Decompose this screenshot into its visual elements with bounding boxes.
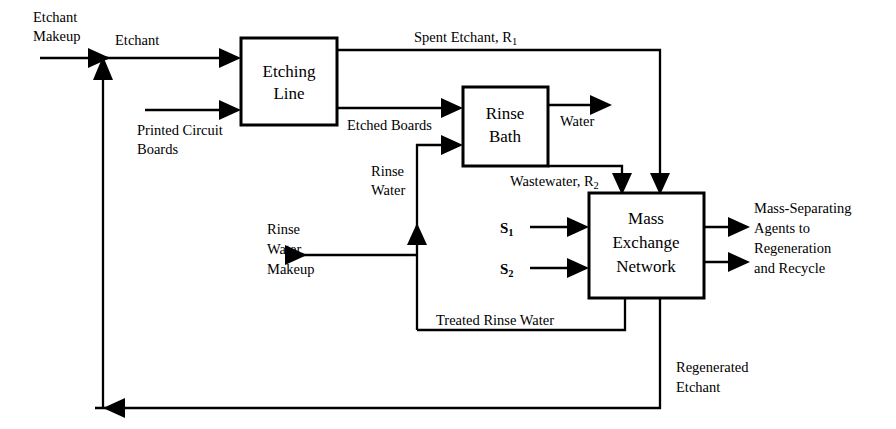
label-etchant-makeup-line1: Etchant bbox=[33, 9, 77, 25]
unit-etching-line[interactable] bbox=[241, 38, 337, 125]
label-rinse-water-makeup-line1: Rinse bbox=[267, 221, 300, 237]
label-spent-etchant: Spent Etchant, R1 bbox=[414, 29, 517, 47]
label-printed-circuit-boards-line1: Printed Circuit bbox=[137, 122, 223, 138]
arrowhead-printed-circuit-boards bbox=[219, 100, 241, 120]
line-regenerated-etchant bbox=[95, 298, 660, 408]
arrowhead-regenerated-etchant bbox=[103, 398, 125, 418]
arrowhead-msa-out-1 bbox=[728, 217, 750, 237]
label-msa-out-line2: Agents to bbox=[754, 220, 810, 236]
unit-mass-exchange-label-line1: Mass bbox=[628, 209, 664, 228]
label-rinse-water-line2: Water bbox=[371, 182, 405, 198]
label-etched-boards: Etched Boards bbox=[347, 117, 432, 133]
process-flow-diagram: Etching Line Rinse Bath Mass Exchange Ne… bbox=[0, 0, 896, 429]
label-wastewater: Wastewater, R2 bbox=[510, 173, 599, 191]
unit-rinse-bath-label-line2: Bath bbox=[489, 127, 522, 146]
label-msa-out-line3: Regeneration bbox=[754, 240, 832, 256]
label-treated-rinse-water: Treated Rinse Water bbox=[436, 312, 554, 328]
label-rinse-water-makeup-line3: Makeup bbox=[267, 261, 315, 277]
label-printed-circuit-boards-line2: Boards bbox=[137, 141, 178, 157]
arrowhead-etched-boards bbox=[441, 98, 463, 118]
arrowhead-water-out bbox=[590, 95, 612, 115]
unit-mass-exchange-label-line2: Exchange bbox=[612, 233, 679, 252]
arrowhead-rinse-water bbox=[441, 135, 463, 155]
label-msa-s2: S2 bbox=[500, 261, 514, 279]
flowsheet-canvas: Etching Line Rinse Bath Mass Exchange Ne… bbox=[0, 0, 896, 429]
label-msa-s1: S1 bbox=[500, 220, 514, 238]
label-rinse-water-line1: Rinse bbox=[371, 163, 404, 179]
unit-etching-line-label-line1: Etching bbox=[263, 62, 316, 81]
label-regenerated-etchant-line1: Regenerated bbox=[676, 359, 749, 375]
label-msa-out-line1: Mass-Separating bbox=[754, 200, 851, 216]
arrowhead-msa-s1 bbox=[567, 217, 589, 237]
arrowhead-etchant bbox=[219, 48, 241, 68]
label-msa-out-line4: and Recycle bbox=[754, 260, 825, 276]
label-etchant-makeup-line2: Makeup bbox=[33, 28, 81, 44]
label-rinse-water-makeup-line2: Water bbox=[267, 241, 301, 257]
unit-rinse-bath-label-line1: Rinse bbox=[486, 104, 525, 123]
label-etchant: Etchant bbox=[115, 32, 159, 48]
unit-etching-line-label-line2: Line bbox=[273, 84, 304, 103]
label-regenerated-etchant-line2: Etchant bbox=[676, 379, 720, 395]
arrowhead-rinse-water-makeup bbox=[407, 223, 427, 245]
arrowhead-msa-s2 bbox=[567, 258, 589, 278]
label-water: Water bbox=[560, 113, 594, 129]
unit-mass-exchange-label-line3: Network bbox=[616, 257, 676, 276]
arrowhead-msa-out-2 bbox=[728, 252, 750, 272]
